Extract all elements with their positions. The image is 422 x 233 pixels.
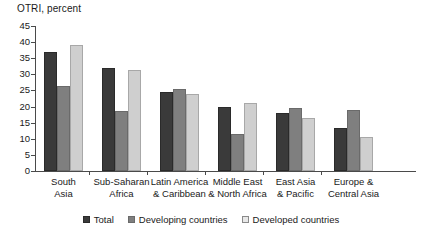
bar[interactable]	[334, 128, 347, 172]
x-axis-separator-tick	[321, 171, 322, 175]
y-axis-tick	[31, 123, 36, 124]
bar[interactable]	[44, 52, 57, 171]
x-axis-separator-tick	[147, 171, 148, 175]
bar[interactable]	[173, 89, 186, 171]
bar[interactable]	[70, 45, 83, 171]
y-axis-tick-label: 20	[4, 102, 30, 112]
y-axis-tick	[31, 139, 36, 140]
y-axis-tick	[31, 107, 36, 108]
x-axis-separator-tick	[263, 171, 264, 175]
y-axis-tick	[31, 155, 36, 156]
bar[interactable]	[244, 103, 257, 171]
bar-group	[44, 26, 83, 171]
legend-label: Developed countries	[253, 214, 340, 225]
y-axis-tick-label: 45	[4, 21, 30, 31]
x-axis-line	[35, 171, 416, 172]
y-axis-line	[35, 26, 36, 172]
y-axis-tick-label: 35	[4, 53, 30, 63]
y-axis-tick-label: 30	[4, 69, 30, 79]
bar[interactable]	[160, 92, 173, 171]
legend-item[interactable]: Total	[83, 214, 114, 225]
bar[interactable]	[186, 94, 199, 171]
bar[interactable]	[360, 137, 373, 171]
y-axis-tick-label: 5	[4, 150, 30, 160]
bar[interactable]	[289, 108, 302, 171]
y-axis-tick-label: 10	[4, 134, 30, 144]
y-axis-tick	[31, 58, 36, 59]
bar-group	[276, 26, 315, 171]
bar-group	[334, 26, 373, 171]
legend-item[interactable]: Developed countries	[242, 214, 340, 225]
x-axis-category-label: Europe & Central Asia	[309, 176, 399, 199]
bar[interactable]	[115, 111, 128, 171]
bar[interactable]	[231, 134, 244, 171]
bar-group	[218, 26, 257, 171]
chart-legend: TotalDeveloping countriesDeveloped count…	[0, 214, 422, 225]
otri-bar-chart: OTRI, percent 454035302520151050 South A…	[0, 0, 422, 233]
bar-group	[160, 26, 199, 171]
bar[interactable]	[276, 113, 289, 171]
bar-group	[102, 26, 141, 171]
bar[interactable]	[128, 70, 141, 172]
y-axis-tick	[31, 90, 36, 91]
legend-swatch-icon	[242, 216, 249, 223]
x-axis-separator-tick	[205, 171, 206, 175]
bar[interactable]	[57, 86, 70, 171]
bar[interactable]	[347, 110, 360, 171]
y-axis-tick-label: 15	[4, 118, 30, 128]
legend-item[interactable]: Developing countries	[128, 214, 228, 225]
x-axis-separator-tick	[89, 171, 90, 175]
y-axis-tick	[31, 171, 36, 172]
legend-swatch-icon	[128, 216, 135, 223]
legend-label: Developing countries	[139, 214, 228, 225]
legend-label: Total	[94, 214, 114, 225]
y-axis-tick-label: 40	[4, 37, 30, 47]
y-axis-tick	[31, 74, 36, 75]
y-axis-tick	[31, 42, 36, 43]
y-axis-tick-label: 25	[4, 85, 30, 95]
y-axis-tick	[31, 26, 36, 27]
legend-swatch-icon	[83, 216, 90, 223]
bar[interactable]	[302, 118, 315, 171]
y-axis-tick-label: 0	[4, 166, 30, 176]
bar[interactable]	[102, 68, 115, 171]
bar[interactable]	[218, 107, 231, 171]
